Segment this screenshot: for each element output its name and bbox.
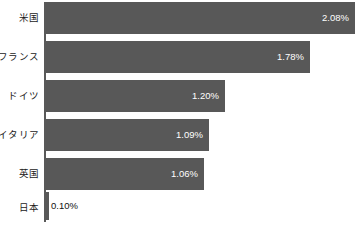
chart-row: 日本 0.10% [0,192,359,224]
category-label: 日本 [0,192,39,224]
category-label: 英国 [0,158,39,190]
bar-chart: 米国 2.08% フランス 1.78% ドイツ 1.20% イタリア 1.09% [0,0,359,232]
chart-plot-area: 米国 2.08% フランス 1.78% ドイツ 1.20% イタリア 1.09% [0,0,359,232]
chart-row: フランス 1.78% [0,41,359,73]
bar-value-label: 1.20% [192,80,219,112]
bar-value-label: 1.06% [171,158,198,190]
bar[interactable]: 1.09% [46,119,209,151]
chart-row: 米国 2.08% [0,2,359,34]
category-label: イタリア [0,119,39,151]
bar-value-label: 1.09% [176,119,203,151]
category-label: フランス [0,41,39,73]
bar-value-label: 2.08% [322,2,349,34]
bar[interactable]: 0.10% [46,192,49,220]
category-label: 米国 [0,2,39,34]
category-axis-line [44,2,46,222]
chart-row: ドイツ 1.20% [0,80,359,112]
chart-row: 英国 1.06% [0,158,359,190]
bar[interactable]: 1.78% [46,41,310,73]
chart-row: イタリア 1.09% [0,119,359,151]
bar[interactable]: 2.08% [46,2,355,34]
bar[interactable]: 1.20% [46,80,225,112]
bar-value-label: 1.78% [277,41,304,73]
bar[interactable]: 1.06% [46,158,204,190]
bar-value-label: 0.10% [51,192,78,220]
category-label: ドイツ [0,80,39,112]
